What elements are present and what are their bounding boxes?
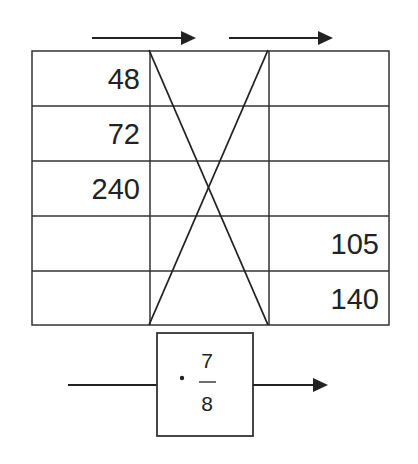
operator-box: 7 8 <box>157 333 253 436</box>
cell-left-1: 48 <box>108 63 140 95</box>
proportion-diagram: 48 72 240 105 140 7 8 <box>0 0 418 464</box>
multiply-dot-icon <box>180 376 184 380</box>
cell-right-5: 140 <box>331 283 379 315</box>
left-column: 48 72 240 <box>92 63 140 205</box>
cell-left-3: 240 <box>92 173 140 205</box>
top-left-arrow <box>92 31 196 45</box>
fraction-denominator: 8 <box>201 392 213 415</box>
cell-right-4: 105 <box>331 228 379 260</box>
cross-lines <box>149 50 268 325</box>
cell-left-2: 72 <box>108 118 140 150</box>
top-right-arrow <box>229 31 333 45</box>
operator-output-arrow <box>253 378 328 392</box>
fraction-numerator: 7 <box>201 349 213 372</box>
